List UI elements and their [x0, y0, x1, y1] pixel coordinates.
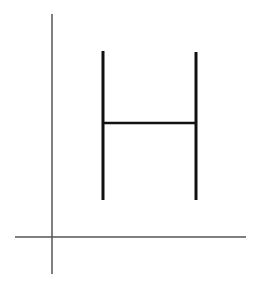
diagram-canvas: [0, 0, 261, 291]
